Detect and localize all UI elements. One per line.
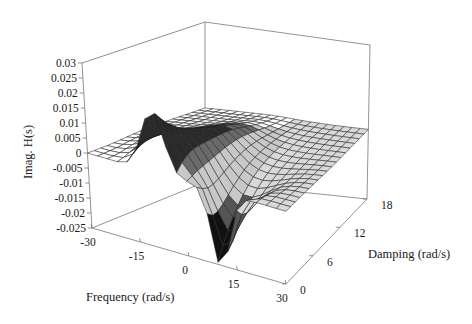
frequency-tick-label: 30	[276, 292, 288, 304]
z-tick-label: 0.03	[56, 57, 76, 69]
surface-plot: 0.030.0250.020.0150.010.0050-0.005-0.01-…	[0, 0, 472, 324]
damping-tick-label: 18	[381, 199, 393, 211]
frequency-tick-label: 0	[182, 264, 188, 276]
z-tick-label: 0.02	[58, 87, 78, 99]
z-axis-ticks: 0.030.0250.020.0150.010.0050-0.005-0.01-…	[51, 57, 92, 234]
z-tick-label: 0	[76, 147, 82, 159]
z-tick-label: -0.025	[56, 222, 86, 234]
damping-tick-label: 6	[327, 256, 333, 268]
z-tick-label: 0.025	[51, 72, 77, 84]
damping-axis-title: Damping (rad/s)	[368, 247, 450, 261]
z-tick-label: -0.005	[53, 162, 83, 174]
damping-tick-label: 12	[354, 227, 366, 239]
frequency-axis-title: Frequency (rad/s)	[86, 290, 175, 304]
frequency-tick-label: 15	[228, 278, 240, 290]
z-tick-label: -0.02	[61, 207, 85, 219]
frequency-tick-label: -30	[80, 236, 96, 248]
z-tick-label: 0.01	[59, 117, 79, 129]
z-tick-label: -0.015	[54, 192, 84, 204]
frequency-tick-label: -15	[129, 250, 145, 262]
z-tick-label: 0.015	[53, 102, 79, 114]
damping-tick-label: 0	[300, 284, 306, 296]
z-tick-label: -0.01	[59, 177, 83, 189]
z-axis-title: Imag. H(s)	[21, 125, 35, 179]
z-tick-label: 0.005	[55, 132, 81, 144]
